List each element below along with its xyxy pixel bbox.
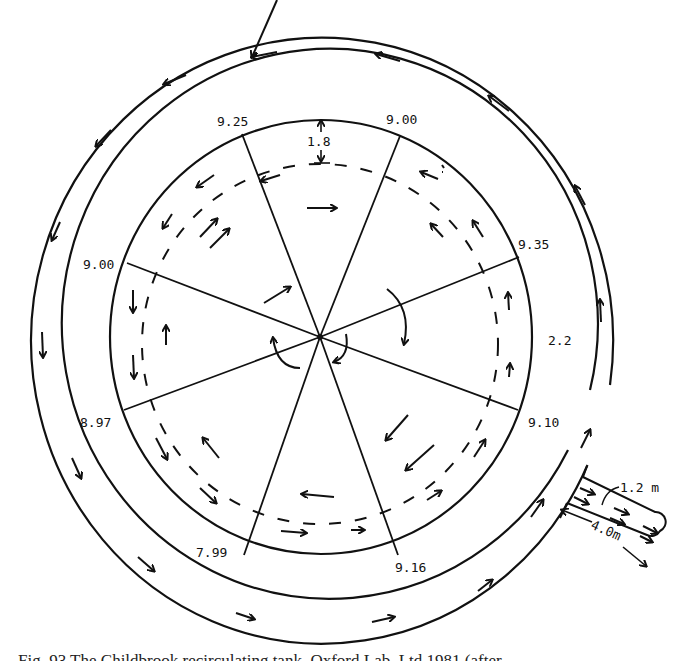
figure-caption: Fig. 93 The Childbrook recirculating tan… <box>18 652 693 661</box>
spoke-label: 9.00 <box>386 112 417 127</box>
spoke-label: 9.25 <box>217 114 248 129</box>
dashed-flow-path <box>142 164 498 524</box>
spoke-label: 7.99 <box>196 545 227 560</box>
spoke-labels: 9.25 9.00 9.35 9.10 9.16 7.99 8.97 9.00 <box>80 112 559 575</box>
spoke-label: 9.35 <box>518 237 549 252</box>
spoke-label: 8.97 <box>80 415 111 430</box>
spoke-label: 9.00 <box>83 257 114 272</box>
spoke-label: 9.16 <box>395 560 426 575</box>
spokes <box>124 134 519 555</box>
top-depth-label: 1.8 <box>307 134 330 149</box>
outlet-width-label: 1.2 m <box>620 480 659 495</box>
channel-flow-arrows <box>42 0 601 622</box>
spoke-label: 9.10 <box>528 415 559 430</box>
tank-flow-diagram: 9.25 9.00 9.35 9.10 9.16 7.99 8.97 9.00 … <box>0 0 693 661</box>
center-pivot <box>317 334 323 340</box>
channel-width-label: 2.2 <box>548 333 571 348</box>
tank-flow-arrows <box>133 165 510 533</box>
